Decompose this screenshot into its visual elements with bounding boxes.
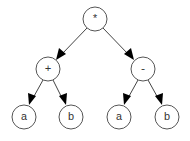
expression-tree-diagram: * + - a b a b bbox=[0, 0, 190, 141]
node-leaf-b-left: b bbox=[59, 105, 83, 129]
node-leaf-a-right: a bbox=[107, 105, 131, 129]
edge-minus-b bbox=[148, 80, 163, 105]
edge-plus-b bbox=[53, 80, 67, 105]
node-leaf-a-left: a bbox=[12, 105, 36, 129]
node-label: - bbox=[140, 63, 147, 75]
edge-root-minus bbox=[103, 28, 134, 60]
node-root-multiply: * bbox=[83, 7, 107, 31]
edge-minus-a bbox=[123, 80, 138, 105]
node-label: + bbox=[45, 63, 52, 75]
node-label: b bbox=[68, 111, 75, 123]
node-plus: + bbox=[36, 57, 60, 81]
node-label: b bbox=[164, 111, 171, 123]
node-label: a bbox=[116, 111, 123, 123]
tree-svg: * + - a b a b bbox=[0, 0, 190, 141]
node-label: a bbox=[21, 111, 28, 123]
node-minus: - bbox=[131, 57, 155, 81]
edge-plus-a bbox=[28, 80, 43, 105]
node-label: * bbox=[92, 13, 99, 25]
edge-root-plus bbox=[56, 28, 87, 60]
node-leaf-b-right: b bbox=[155, 105, 179, 129]
